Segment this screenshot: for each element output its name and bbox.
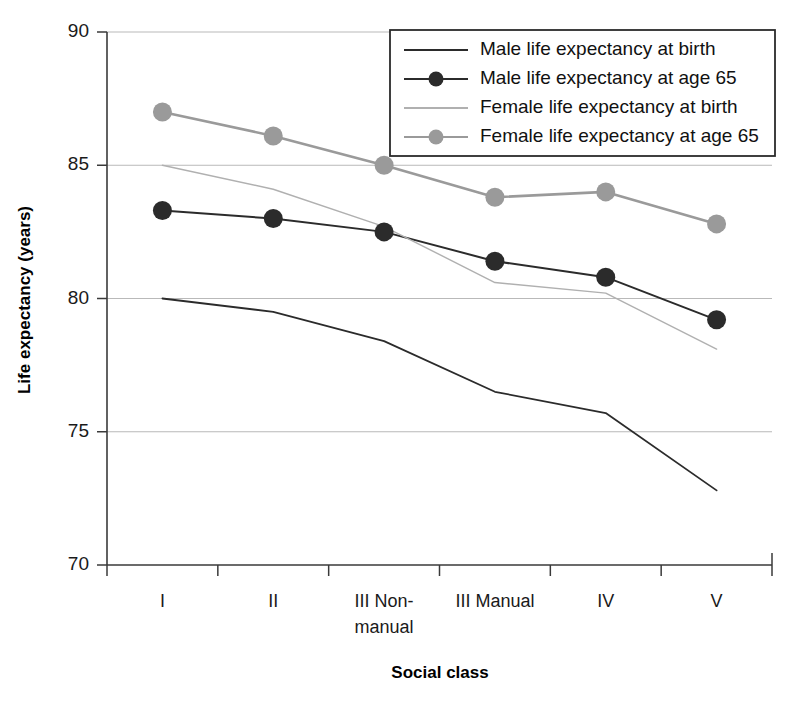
x-tick-label: V <box>711 591 723 611</box>
y-axis-ticks <box>97 32 107 565</box>
x-tick-label: I <box>160 591 165 611</box>
data-point-marker <box>153 201 172 220</box>
data-point-marker <box>485 252 504 271</box>
y-tick-label: 80 <box>68 287 89 308</box>
data-point-marker <box>375 156 394 175</box>
legend-marker-icon <box>429 130 444 145</box>
x-tick-label: II <box>268 591 278 611</box>
data-point-marker <box>264 209 283 228</box>
data-point-marker <box>707 310 726 329</box>
data-point-marker <box>375 222 394 241</box>
y-tick-label: 75 <box>68 420 89 441</box>
x-tick-labels: IIIIII Non-manualIII ManualIVV <box>160 591 723 637</box>
x-tick-label: III Manual <box>455 591 534 611</box>
data-point-marker <box>707 214 726 233</box>
series-line <box>162 211 716 320</box>
data-point-marker <box>485 188 504 207</box>
data-point-marker <box>596 182 615 201</box>
y-tick-label: 90 <box>68 20 89 41</box>
line-chart: 7075808590 IIIIII Non-manualIII ManualIV… <box>0 0 790 711</box>
legend-marker-icon <box>429 72 444 87</box>
x-axis-title: Social class <box>391 663 488 682</box>
chart-figure: 7075808590 IIIIII Non-manualIII ManualIV… <box>0 0 790 711</box>
series-line <box>162 165 716 349</box>
series-line <box>162 299 716 491</box>
legend-label: Female life expectancy at birth <box>480 96 738 117</box>
y-axis-title: Life expectancy (years) <box>15 206 34 394</box>
legend-label: Male life expectancy at birth <box>480 38 716 59</box>
x-axis-ticks <box>107 565 772 576</box>
x-tick-label: III Non- <box>355 591 414 611</box>
x-tick-label: IV <box>597 591 614 611</box>
data-point-marker <box>264 126 283 145</box>
x-tick-label: manual <box>355 617 414 637</box>
chart-legend: Male life expectancy at birthMale life e… <box>390 30 775 156</box>
y-tick-label: 85 <box>68 153 89 174</box>
legend-label: Male life expectancy at age 65 <box>480 67 737 88</box>
data-point-marker <box>596 268 615 287</box>
y-tick-label: 70 <box>68 553 89 574</box>
y-tick-labels: 7075808590 <box>68 20 89 574</box>
data-point-marker <box>153 102 172 121</box>
legend-label: Female life expectancy at age 65 <box>480 125 759 146</box>
